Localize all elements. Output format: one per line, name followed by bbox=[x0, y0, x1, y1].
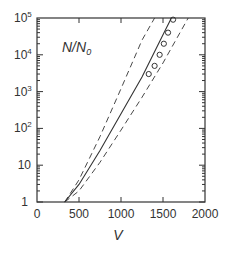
chart: 110102103104105 0500100015002000 N/N0 V bbox=[0, 0, 246, 254]
x-axis-label: V bbox=[113, 227, 124, 243]
x-tick-label: 2000 bbox=[192, 207, 219, 221]
y-tick-label: 103 bbox=[14, 84, 32, 99]
y-tick-label: 10 bbox=[18, 158, 32, 172]
x-tick-label: 1500 bbox=[150, 207, 177, 221]
data-point-circle bbox=[157, 52, 162, 57]
x-tick-label: 0 bbox=[34, 207, 41, 221]
y-tick-label: 104 bbox=[14, 47, 32, 62]
data-point-circle bbox=[165, 30, 170, 35]
data-point-circle bbox=[152, 63, 157, 68]
y-tick-label: 102 bbox=[14, 120, 32, 135]
data-point-circle bbox=[161, 41, 166, 46]
y-tick-label: 105 bbox=[14, 10, 32, 25]
plot-svg: 110102103104105 0500100015002000 N/N0 V bbox=[0, 0, 246, 254]
x-tick-label: 500 bbox=[69, 207, 89, 221]
x-tick-label: 1000 bbox=[108, 207, 135, 221]
y-tick-labels: 110102103104105 bbox=[14, 10, 32, 209]
annotation-label: N/N0 bbox=[62, 39, 91, 57]
x-tick-labels: 0500100015002000 bbox=[34, 207, 219, 221]
data-point-circle bbox=[146, 71, 151, 76]
y-tick-label: 1 bbox=[21, 195, 28, 209]
